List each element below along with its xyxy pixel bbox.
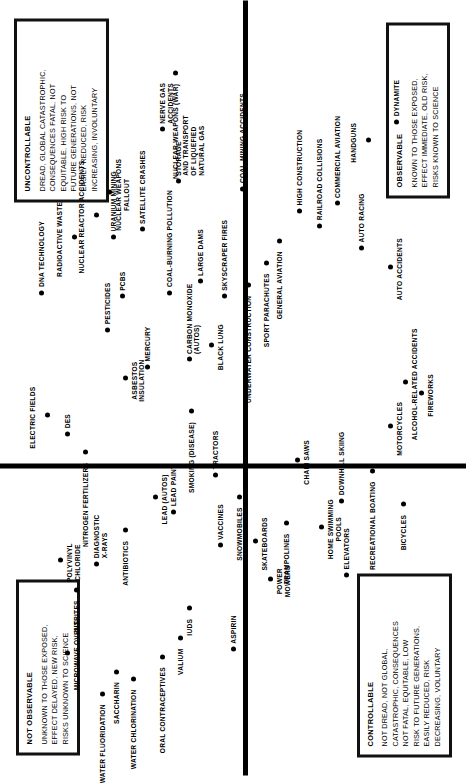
quadrant-line: NOT FATAL, EQUITABLE, LOW: [401, 584, 411, 746]
data-point-label: MOTORCYCLES: [396, 401, 404, 455]
data-point-marker: [335, 201, 340, 206]
data-point-marker: [231, 646, 236, 651]
data-point-marker: [153, 494, 158, 499]
data-point-label: ELECTRIC FIELDS: [29, 386, 37, 448]
data-point-marker: [114, 669, 119, 674]
data-point-label: LEAD PAINT: [170, 464, 178, 506]
data-point-label: SPORT PARACHUTES: [263, 273, 271, 347]
data-point-marker: [45, 412, 50, 417]
data-point-marker: [297, 208, 302, 213]
data-point-label: NUCLEAR REACTOR ACCIDENTS: [78, 160, 86, 273]
quadrant-title: UNCONTROLLABLE: [23, 29, 34, 191]
data-point-label: WATER FLUORIDATION: [99, 704, 107, 783]
data-point-label: ASBESTOS INSULATION: [131, 359, 147, 401]
data-point-marker: [264, 260, 269, 265]
data-point-label: ORAL CONTRACEPTIVES: [159, 667, 167, 753]
data-point-label: ASPIRIN: [230, 615, 238, 644]
data-point-label: ELEVATORS: [343, 528, 351, 569]
data-point-marker: [268, 576, 273, 581]
data-point-marker: [140, 227, 145, 232]
data-point-marker: [419, 390, 424, 395]
data-point-label: LEAD (AUTOS): [161, 474, 169, 524]
quadrant-line: RISK TO FUTURE GENERATIONS,: [412, 584, 422, 746]
data-point-label: COAL-BURNING POLLUTION: [166, 190, 174, 287]
quadrant-box-uncontrollable: UNCONTROLLABLE DREAD, GLOBAL CATASTROPHI…: [14, 18, 109, 202]
data-point-label: SKATEBOARDS: [261, 517, 269, 570]
data-point-marker: [198, 279, 203, 284]
data-point-marker: [277, 238, 282, 243]
data-point-marker: [171, 509, 176, 514]
data-point-marker: [160, 654, 165, 659]
data-point-marker: [246, 282, 251, 287]
quadrant-line: EASILY REDUCED, RISK: [422, 584, 432, 746]
quadrant-line: NOT DREAD, NOT GLOBAL,: [380, 584, 390, 746]
data-point-marker: [107, 189, 112, 194]
quadrant-line: RISKS KNOWN TO SCIENCE: [431, 33, 441, 187]
quadrant-box-not-observable: NOT OBSERVABLE UNKNOWN TO THOSE EXPOSED,…: [16, 579, 80, 755]
data-point-marker: [222, 293, 227, 298]
data-point-label: CARBON MONOXIDE (AUTOS): [186, 283, 202, 353]
data-point-label: TRACTORS: [212, 430, 220, 469]
data-point-marker: [178, 635, 183, 640]
data-point-label: HIGH CONSTRUCTION: [296, 129, 304, 205]
data-point-marker: [189, 409, 194, 414]
data-point-label: LARGE DAMS: [197, 229, 205, 276]
data-point-marker: [39, 290, 44, 295]
data-point-marker: [240, 186, 245, 191]
data-point-marker: [284, 520, 289, 525]
data-point-marker: [94, 212, 99, 217]
quadrant-line: KNOWN TO THOSE EXPOSED,: [410, 33, 420, 187]
data-point-marker: [72, 234, 77, 239]
vertical-axis: [0, 463, 466, 468]
data-point-label: COAL-MINING ACCIDENTS: [239, 93, 247, 183]
data-point-marker: [160, 126, 165, 131]
data-point-label: HOME SWIMMING POOLS: [327, 499, 343, 559]
quadrant-line: CATASTROPHIC, CONSEQUENCES: [391, 584, 401, 746]
data-point-marker: [237, 494, 242, 499]
data-point-label: CHAIN SAWS: [303, 439, 311, 484]
data-point-marker: [388, 423, 393, 428]
data-point-label: COMMERCIAL AVIATION: [334, 115, 342, 197]
data-point-marker: [145, 364, 150, 369]
data-point-label: HANDGUNS: [350, 122, 358, 162]
quadrant-line: EFFECT IMMEDIATE, OLD RISK,: [420, 33, 430, 187]
data-point-label: DNA TECHNOLOGY: [38, 221, 46, 287]
quadrant-line: DREAD, GLOBAL CATASTROPHIC,: [38, 29, 48, 191]
data-point-marker: [123, 375, 128, 380]
data-point-marker: [344, 572, 349, 577]
data-point-marker: [388, 264, 393, 269]
data-point-marker: [83, 449, 88, 454]
data-point-marker: [403, 379, 408, 384]
data-point-marker: [317, 223, 322, 228]
data-point-marker: [253, 539, 258, 544]
data-point-label: ALCOHOL-RELATED ACCIDENTS: [411, 328, 419, 440]
data-point-marker: [187, 357, 192, 362]
data-point-label: NITROGEN FERTILIZERS: [82, 462, 90, 546]
data-point-label: DES: [64, 414, 72, 428]
data-point-marker: [111, 234, 116, 239]
quadrant-title: NOT OBSERVABLE: [25, 590, 36, 744]
data-point-label: SMOKING (DISEASE): [188, 422, 196, 493]
data-point-label: RECREATIONAL BOATING: [369, 481, 377, 570]
data-point-marker: [359, 245, 364, 250]
data-point-marker: [65, 650, 70, 655]
quadrant-title: CONTROLLABLE: [366, 584, 377, 746]
data-point-label: BLACK LUNG: [217, 324, 225, 370]
data-point-label: SACCHARIN: [113, 682, 121, 724]
data-point-marker: [123, 527, 128, 532]
data-point-label: SKYSCRAPER FIRES: [221, 219, 229, 290]
data-point-label: AUTO RACING: [358, 193, 366, 242]
data-point-label: UNDERWATER CONSTRUCTION: [245, 295, 253, 402]
data-point-marker: [187, 605, 192, 610]
quadrant-line: EFFECT DELAYED, NEW RISK,: [50, 590, 60, 744]
data-point-marker: [94, 561, 99, 566]
data-point-label: TRAMPOLINES: [283, 533, 291, 584]
data-point-label: POLYVINYL CHLORIDE: [66, 543, 82, 582]
data-point-label: AUTO ACCIDENTS: [396, 238, 404, 300]
data-point-marker: [366, 137, 371, 142]
data-point-marker: [131, 676, 136, 681]
data-point-label: MERCURY: [144, 326, 152, 361]
data-point-label: PCBS: [119, 271, 127, 290]
quadrant-line: RISKS UNKNOWN TO SCIENCE: [61, 590, 71, 744]
